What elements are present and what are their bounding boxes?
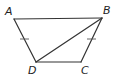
vertex-label-c: C (81, 64, 89, 77)
segment-ab (14, 18, 102, 19)
vertex-label-d: D (28, 64, 36, 77)
vertex-label-b: B (103, 4, 111, 17)
segment-da (14, 19, 36, 62)
trapezoid-diagram: A B C D (0, 0, 115, 77)
vertex-label-a: A (4, 5, 13, 18)
